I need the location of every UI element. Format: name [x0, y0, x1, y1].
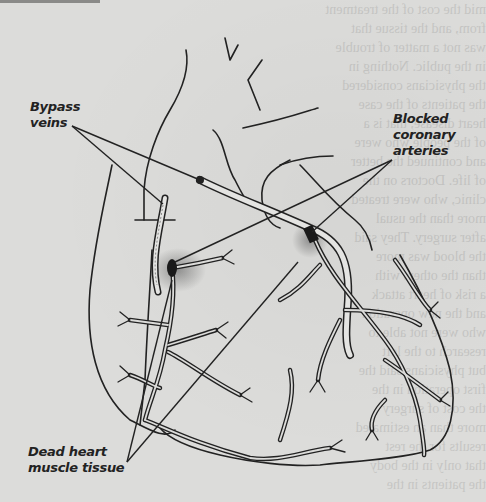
label-blocked-line3: arteries	[393, 143, 456, 159]
label-bypass-veins: Bypass veins	[30, 99, 80, 131]
label-dead-line1: Dead heart	[28, 444, 124, 460]
label-dead-line2: muscle tissue	[28, 460, 124, 476]
leader-lines	[72, 126, 392, 462]
label-bypass-veins-line1: Bypass	[30, 99, 80, 115]
diagram-canvas: mid the cost of the treatment from, and …	[0, 0, 486, 502]
label-blocked-coronary-arteries: Blocked coronary arteries	[393, 111, 456, 159]
label-blocked-line2: coronary	[393, 127, 456, 143]
heart-outline-left	[160, 255, 453, 465]
label-dead-heart-muscle-tissue: Dead heart muscle tissue	[28, 444, 124, 476]
label-bypass-veins-line2: veins	[30, 115, 80, 131]
heart-illustration	[0, 0, 486, 502]
great-vessels	[135, 38, 262, 220]
label-blocked-line1: Blocked	[393, 111, 456, 127]
